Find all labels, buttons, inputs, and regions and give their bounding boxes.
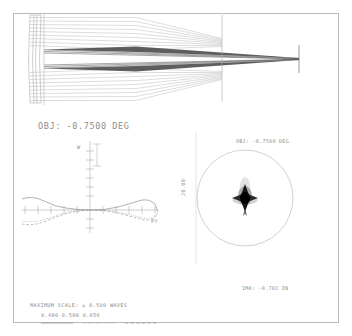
lower-ray-bundle [30,69,222,101]
maximum-scale-label: MAXIMUM SCALE: ± 0.500 WAVES [30,303,127,308]
spot-diagram-svg [178,128,313,268]
ray-fan-panel [14,133,166,241]
layout-field-label: OBJ: -0.7500 DEG [38,122,129,131]
spot-image-height-label: IMA: -0.702 IN [242,286,288,291]
spot-cloud [232,177,258,216]
ray-fan-svg [14,133,166,241]
upper-ray-bundle [30,18,222,50]
spot-diagram-panel [178,128,313,268]
optical-analysis-window: OBJ: -0.7500 DEG [0,0,352,336]
central-dark-beam [44,47,299,72]
rayfan-y-axis-label: W [77,145,80,150]
wavelength-legend-lines [29,320,169,327]
rayfan-scale-bar [92,143,102,167]
lens-layout-panel [14,5,312,113]
rayfan-x-axis-label: PY [151,219,158,224]
lens-layout-svg [14,5,312,113]
wavelengths-label: 0.486 0.588 0.656 [41,313,100,318]
